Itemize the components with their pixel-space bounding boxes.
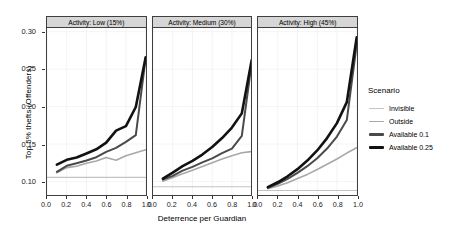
- x-tick-label: 0.0: [41, 201, 51, 208]
- y-tick-label: 0.10: [8, 178, 36, 186]
- series-line: [163, 152, 252, 182]
- legend-item: Available 0.25: [368, 141, 448, 154]
- legend-key-line-icon: [368, 115, 384, 128]
- y-tick-label: 0.30: [8, 28, 36, 36]
- facet-strip-label: Activity: Medium (30%): [152, 16, 253, 28]
- x-tick-mark: [318, 196, 319, 199]
- x-tick-label: 0.2: [61, 201, 71, 208]
- x-tick-mark: [232, 196, 233, 199]
- legend: Scenario InvisibleOutsideAvailable 0.1Av…: [368, 86, 448, 154]
- x-tick-mark: [358, 196, 359, 199]
- facet-panel: Activity: Low (15%): [46, 16, 147, 196]
- legend-key-line-icon: [368, 102, 384, 115]
- series-line: [57, 150, 146, 173]
- x-tick-mark: [66, 196, 67, 199]
- series-line: [268, 44, 357, 187]
- facet-panel: Activity: Medium (30%): [152, 16, 253, 196]
- x-tick-mark: [172, 196, 173, 199]
- x-tick-label: 1.0: [353, 201, 363, 208]
- x-tick-label: 0.4: [187, 201, 197, 208]
- x-tick-label: 0.2: [272, 201, 282, 208]
- x-tick-label: 0.4: [81, 201, 91, 208]
- y-tick-label: 0.20: [8, 103, 36, 111]
- x-tick-mark: [212, 196, 213, 199]
- x-tick-label: 0.8: [333, 201, 343, 208]
- x-tick-label: 0.6: [101, 201, 111, 208]
- panel-plot-area: [152, 28, 253, 196]
- legend-key-line-icon: [368, 141, 384, 154]
- x-tick-label: 0.6: [313, 201, 323, 208]
- legend-item: Invisible: [368, 102, 448, 115]
- x-tick-label: 0.4: [293, 201, 303, 208]
- y-axis-ticks: 0.100.150.200.250.30: [6, 0, 36, 236]
- y-tick-label: 0.25: [8, 65, 36, 73]
- y-tick-mark: [42, 69, 45, 70]
- x-tick-mark: [277, 196, 278, 199]
- x-tick-mark: [147, 196, 148, 199]
- legend-key-line-icon: [368, 128, 384, 141]
- facet-panel: Activity: High (45%): [257, 16, 358, 196]
- legend-item-label: Invisible: [389, 105, 414, 112]
- x-tick-mark: [298, 196, 299, 199]
- y-tick-mark: [42, 182, 45, 183]
- x-tick-mark: [86, 196, 87, 199]
- x-tick-label: 0.8: [122, 201, 132, 208]
- facet-strip-label: Activity: Low (15%): [46, 16, 147, 28]
- x-tick-mark: [152, 196, 153, 199]
- legend-item: Outside: [368, 115, 448, 128]
- legend-item: Available 0.1: [368, 128, 448, 141]
- x-tick-label: 0.0: [252, 201, 262, 208]
- panel-plot-area: [46, 28, 147, 196]
- legend-items: InvisibleOutsideAvailable 0.1Available 0…: [368, 102, 448, 154]
- panel-plot-area: [257, 28, 358, 196]
- y-tick-label: 0.15: [8, 141, 36, 149]
- y-tick-mark: [42, 145, 45, 146]
- x-tick-mark: [46, 196, 47, 199]
- x-tick-label: 0.2: [167, 201, 177, 208]
- x-tick-mark: [252, 196, 253, 199]
- y-tick-mark: [42, 32, 45, 33]
- chart-figure: Top 5% thefts (Offenders) 0.100.150.200.…: [0, 0, 450, 236]
- legend-item-label: Outside: [389, 118, 413, 125]
- x-tick-label: 0.8: [227, 201, 237, 208]
- x-axis-title: Deterrence per Guardian: [46, 214, 358, 223]
- facet-strip-label: Activity: High (45%): [257, 16, 358, 28]
- x-tick-label: 0.0: [147, 201, 157, 208]
- x-tick-label: 0.6: [207, 201, 217, 208]
- series-line: [268, 37, 357, 187]
- x-tick-mark: [192, 196, 193, 199]
- x-tick-mark: [127, 196, 128, 199]
- legend-title: Scenario: [368, 86, 448, 95]
- legend-item-label: Available 0.1: [389, 131, 429, 138]
- legend-item-label: Available 0.25: [389, 144, 433, 151]
- series-line: [163, 63, 252, 179]
- series-line: [57, 57, 146, 164]
- y-tick-mark: [42, 107, 45, 108]
- x-tick-mark: [257, 196, 258, 199]
- x-tick-mark: [106, 196, 107, 199]
- x-tick-mark: [338, 196, 339, 199]
- facet-panels: Activity: Low (15%)Activity: Medium (30%…: [46, 16, 358, 196]
